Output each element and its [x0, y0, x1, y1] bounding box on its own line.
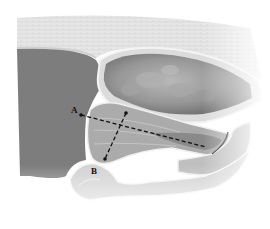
label-b: B [91, 167, 97, 176]
label-a: A [71, 106, 78, 115]
anatomical-illustration: A B [0, 0, 270, 229]
anatomy-drawing [0, 0, 270, 229]
fade-bottom [0, 0, 270, 229]
